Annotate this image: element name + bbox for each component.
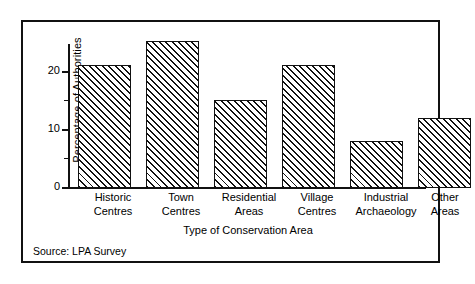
category-line-2: Areas [404,205,475,219]
x-axis-title: Type of Conservation Area [69,224,427,237]
bar-industrial-archaeology [350,141,403,188]
bar-other-areas [418,118,471,188]
category-label-other-areas: Other Areas [404,191,475,218]
bar-town-centres [146,41,199,188]
y-tick-20 [62,71,69,73]
bar-residential-areas [214,100,267,188]
y-tick-0 [62,187,69,189]
bar-historic-centres [78,65,131,188]
source-note: Source: LPA Survey [33,245,126,258]
bar-village-centres [282,65,335,188]
bars-group [69,45,424,188]
y-axis-title-wrap: Percentage of Authorities [31,42,47,192]
y-tick-10 [62,129,69,131]
category-line-1: Other [404,191,475,205]
